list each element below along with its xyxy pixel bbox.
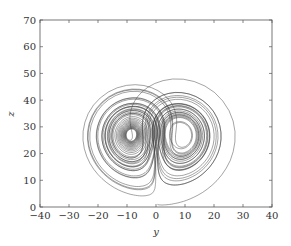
y-tick-label: 60 — [23, 41, 36, 52]
y-tick-label: 30 — [23, 121, 36, 132]
x-tick-label: 0 — [153, 210, 159, 221]
plot-area — [83, 79, 235, 205]
x-tick-label: 40 — [266, 210, 279, 221]
y-tick-label: 70 — [23, 15, 36, 26]
x-tick-label: −20 — [87, 210, 108, 221]
trajectory-line — [83, 79, 235, 205]
x-tick-label: −10 — [116, 210, 137, 221]
y-tick-label: 0 — [30, 202, 36, 213]
x-tick-label: −30 — [58, 210, 79, 221]
y-axis-label: z — [5, 111, 16, 118]
x-tick-label: 20 — [208, 210, 221, 221]
y-tick-label: 40 — [23, 95, 36, 106]
chart: −40−30−20−10010203040 010203040506070 y … — [0, 0, 291, 246]
y-tick-label: 50 — [23, 68, 36, 79]
x-tick-label: 10 — [179, 210, 192, 221]
x-tick-label: 30 — [237, 210, 250, 221]
y-tick-label: 10 — [23, 175, 36, 186]
y-tick-label: 20 — [23, 148, 36, 159]
x-axis-label: y — [152, 226, 159, 237]
axes-frame — [40, 20, 272, 207]
